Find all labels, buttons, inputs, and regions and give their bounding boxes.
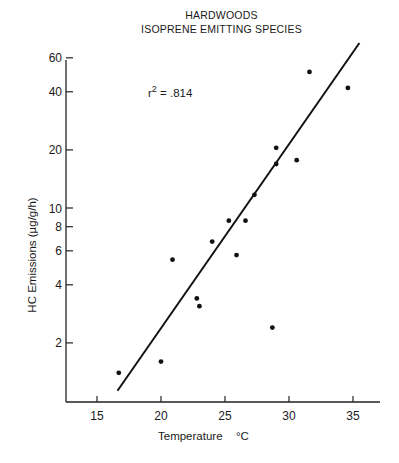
y-axis-label: HC Emissions (µg/g/h) — [26, 197, 38, 312]
regression-line — [117, 43, 359, 391]
axes — [66, 60, 380, 402]
y-tick-label: 10 — [49, 202, 63, 216]
data-point — [159, 359, 164, 364]
data-point — [252, 192, 257, 197]
x-ticks: 1520253035 — [90, 396, 360, 423]
y-tick-label: 6 — [55, 244, 62, 258]
data-point — [274, 162, 279, 167]
scatter-plot: 246810204060 1520253035 r2 = .814 HC Emi… — [0, 0, 399, 463]
y-tick-label: 20 — [49, 143, 63, 157]
data-point — [194, 296, 199, 301]
data-point — [243, 218, 248, 223]
y-ticks: 246810204060 — [49, 51, 73, 350]
data-point — [116, 370, 121, 375]
x-tick-label: 30 — [282, 409, 296, 423]
y-tick-label: 40 — [49, 85, 63, 99]
x-tick-label: 20 — [154, 409, 168, 423]
x-axis-label: Temperature — [158, 430, 223, 442]
x-axis-unit: °C — [236, 430, 249, 442]
y-tick-label: 4 — [55, 278, 62, 292]
x-tick-label: 35 — [346, 409, 360, 423]
data-point — [210, 239, 215, 244]
y-tick-label: 60 — [49, 51, 63, 65]
data-point — [270, 325, 275, 330]
data-point — [307, 70, 312, 75]
data-point — [294, 158, 299, 163]
data-points — [116, 70, 350, 376]
data-point — [197, 304, 202, 309]
data-point — [274, 145, 279, 150]
data-point — [170, 257, 175, 262]
data-point — [234, 253, 239, 258]
r-value: = .814 — [157, 87, 193, 99]
data-point — [226, 218, 231, 223]
x-tick-label: 15 — [90, 409, 104, 423]
x-tick-label: 25 — [218, 409, 232, 423]
data-point — [345, 86, 350, 91]
y-tick-label: 8 — [55, 220, 62, 234]
r-squared-annotation: r2 = .814 — [148, 84, 193, 99]
y-tick-label: 2 — [55, 336, 62, 350]
